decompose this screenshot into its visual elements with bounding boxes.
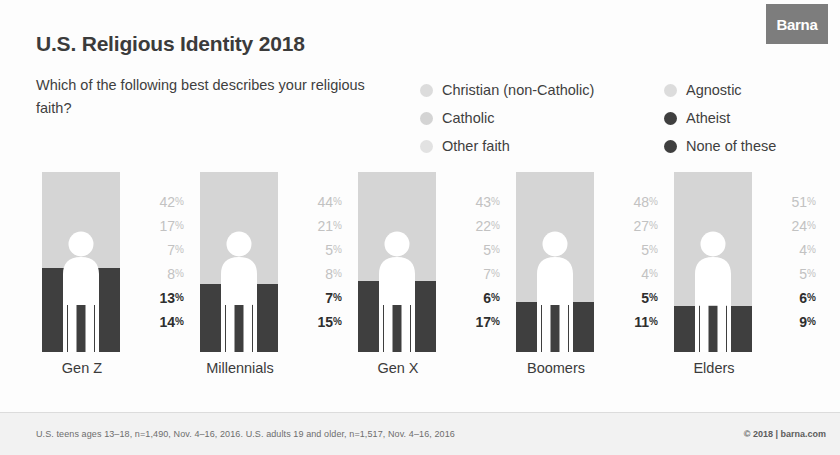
footer: U.S. teens ages 13–18, n=1,490, Nov. 4–1…	[0, 413, 840, 455]
percent-sign: %	[491, 220, 500, 231]
value-number: 7	[325, 290, 333, 306]
percent-sign: %	[807, 220, 816, 231]
legend-label: None of these	[686, 138, 776, 154]
chart-column-millennials: 44%21%5%8%7%15%Millennials	[194, 172, 352, 382]
value-label: 24%	[760, 214, 816, 238]
value-label: 9%	[760, 310, 816, 334]
stacked-bar	[358, 172, 436, 352]
percent-sign: %	[491, 292, 500, 303]
value-number: 42	[160, 194, 176, 210]
value-label: 43%	[444, 190, 500, 214]
infographic-canvas: Barna U.S. Religious Identity 2018 Which…	[0, 0, 840, 455]
value-labels: 42%17%7%8%13%14%	[128, 190, 184, 334]
legend-item-catholic: Catholic	[420, 110, 664, 126]
value-number: 24	[792, 218, 808, 234]
person-silhouette-icon	[42, 172, 120, 352]
value-label: 7%	[128, 238, 184, 262]
legend-swatch-icon	[420, 140, 433, 153]
category-label: Elders	[668, 360, 760, 376]
percent-sign: %	[175, 316, 184, 327]
value-label: 51%	[760, 190, 816, 214]
person-silhouette-icon	[200, 172, 278, 352]
percent-sign: %	[333, 196, 342, 207]
value-label: 15%	[286, 310, 342, 334]
value-number: 27	[634, 218, 650, 234]
value-number: 13	[160, 290, 176, 306]
value-number: 9	[799, 314, 807, 330]
legend-item-other-faith: Other faith	[420, 138, 664, 154]
footnote-sample: U.S. teens ages 13–18, n=1,490, Nov. 4–1…	[36, 429, 455, 439]
value-number: 22	[476, 218, 492, 234]
chart-column-elders: 51%24%4%5%6%9%Elders	[668, 172, 826, 382]
percent-sign: %	[807, 292, 816, 303]
value-number: 5	[641, 242, 649, 258]
value-number: 48	[634, 194, 650, 210]
legend-item-agnostic: Agnostic	[664, 82, 824, 98]
value-labels: 44%21%5%8%7%15%	[286, 190, 342, 334]
value-label: 8%	[286, 262, 342, 286]
legend-item-none-of-these: None of these	[664, 138, 824, 154]
legend-item-atheist: Atheist	[664, 110, 824, 126]
value-number: 17	[160, 218, 176, 234]
value-label: 5%	[602, 238, 658, 262]
footer-copyright: © 2018 | barna.com	[744, 429, 826, 439]
percent-sign: %	[649, 292, 658, 303]
value-number: 5	[799, 266, 807, 282]
value-label: 7%	[286, 286, 342, 310]
legend-label: Catholic	[442, 110, 494, 126]
value-number: 21	[318, 218, 334, 234]
percent-sign: %	[649, 268, 658, 279]
percent-sign: %	[491, 244, 500, 255]
value-number: 5	[325, 242, 333, 258]
value-label: 21%	[286, 214, 342, 238]
stacked-bar	[674, 172, 752, 352]
value-number: 5	[641, 290, 649, 306]
value-label: 6%	[760, 286, 816, 310]
value-label: 5%	[760, 262, 816, 286]
value-label: 4%	[760, 238, 816, 262]
percent-sign: %	[333, 292, 342, 303]
legend-label: Other faith	[442, 138, 510, 154]
chart-column-gen-x: 43%22%5%7%6%17%Gen X	[352, 172, 510, 382]
legend-swatch-icon	[664, 112, 677, 125]
percent-sign: %	[649, 244, 658, 255]
value-label: 22%	[444, 214, 500, 238]
percent-sign: %	[333, 244, 342, 255]
value-label: 5%	[602, 286, 658, 310]
chart-area: 42%17%7%8%13%14%Gen Z44%21%5%8%7%15%Mill…	[36, 172, 826, 382]
percent-sign: %	[807, 268, 816, 279]
value-number: 15	[318, 314, 334, 330]
percent-sign: %	[175, 244, 184, 255]
value-label: 14%	[128, 310, 184, 334]
person-silhouette-icon	[358, 172, 436, 352]
percent-sign: %	[649, 316, 658, 327]
value-number: 7	[483, 266, 491, 282]
value-number: 44	[318, 194, 334, 210]
value-number: 5	[483, 242, 491, 258]
legend-label: Atheist	[686, 110, 730, 126]
value-label: 4%	[602, 262, 658, 286]
value-number: 17	[476, 314, 492, 330]
value-labels: 51%24%4%5%6%9%	[760, 190, 816, 334]
value-label: 13%	[128, 286, 184, 310]
value-label: 5%	[444, 238, 500, 262]
percent-sign: %	[175, 220, 184, 231]
category-label: Gen X	[352, 360, 444, 376]
category-label: Boomers	[510, 360, 602, 376]
percent-sign: %	[175, 196, 184, 207]
legend-item-christian-non-catholic: Christian (non-Catholic)	[420, 82, 664, 98]
barna-logo: Barna	[766, 4, 828, 44]
legend-swatch-icon	[664, 84, 677, 97]
legend-swatch-icon	[420, 112, 433, 125]
percent-sign: %	[333, 220, 342, 231]
percent-sign: %	[175, 268, 184, 279]
percent-sign: %	[491, 268, 500, 279]
value-labels: 43%22%5%7%6%17%	[444, 190, 500, 334]
legend-swatch-icon	[664, 140, 677, 153]
percent-sign: %	[649, 196, 658, 207]
person-silhouette-icon	[516, 172, 594, 352]
percent-sign: %	[649, 220, 658, 231]
value-label: 42%	[128, 190, 184, 214]
percent-sign: %	[807, 196, 816, 207]
percent-sign: %	[333, 268, 342, 279]
